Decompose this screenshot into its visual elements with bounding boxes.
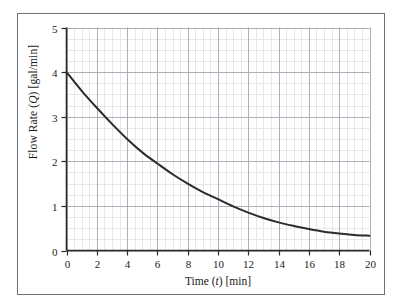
- x-axis-label-post: ) [min]: [219, 275, 251, 287]
- x-tick-label: 12: [243, 258, 254, 270]
- x-tick-label: 6: [155, 258, 161, 270]
- x-axis-label-pre: Time (: [185, 275, 216, 287]
- x-tick-label: 20: [365, 258, 377, 270]
- y-tick-label: 1: [52, 201, 58, 213]
- y-tick-label: 3: [52, 112, 58, 124]
- x-axis-label: Time (t) [min]: [118, 275, 318, 287]
- x-tick-label: 4: [125, 258, 131, 270]
- y-tick-label: 0: [52, 246, 58, 258]
- plot-area: 02468101214161820012345: [0, 0, 401, 306]
- x-tick-label: 18: [334, 258, 346, 270]
- x-tick-label: 10: [213, 258, 225, 270]
- y-axis-label-post: ) [gal/min]: [27, 45, 39, 96]
- y-axis-label: Flow Rate (Q) [gal/min]: [27, 27, 39, 177]
- x-tick-label: 14: [274, 258, 286, 270]
- y-axis-label-variable: Q: [27, 95, 39, 103]
- y-tick-label: 5: [52, 23, 58, 35]
- figure-canvas: 02468101214161820012345 Flow Rate (Q) [g…: [0, 0, 401, 306]
- y-tick-label: 4: [52, 67, 58, 79]
- x-tick-label: 0: [65, 258, 71, 270]
- y-axis-label-pre: Flow Rate (: [27, 104, 39, 159]
- x-tick-label: 2: [95, 258, 101, 270]
- flow-rate-decay-chart: 02468101214161820012345: [0, 0, 401, 306]
- x-tick-label: 8: [186, 258, 192, 270]
- x-tick-label: 16: [304, 258, 316, 270]
- plot-background: [67, 28, 370, 251]
- y-tick-label: 2: [52, 156, 58, 168]
